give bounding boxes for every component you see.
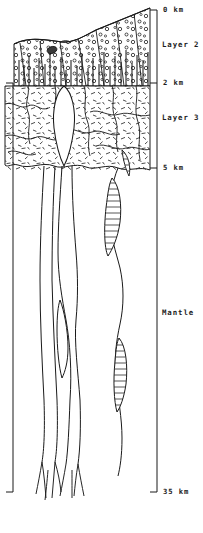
left-magma-conduit [40, 166, 44, 462]
layer-3-body [4, 86, 152, 172]
central-magma-conduit-edge [72, 166, 80, 464]
depth-axis-right [150, 10, 157, 492]
conduit-roots [36, 462, 84, 500]
right-conduit-melt-pocket-lower [108, 332, 136, 420]
geologic-cross-section-figure: 0 km 2 km 5 km 35 km Layer 2 Layer 3 Man… [0, 0, 203, 533]
central-conduit-swelling [57, 300, 68, 378]
depth-tick-label-0km: 0 km [163, 5, 184, 14]
mantle-label: Mantle [162, 308, 194, 317]
depth-tick-label-5km: 5 km [163, 163, 184, 172]
layer-3-label: Layer 3 [162, 113, 199, 122]
left-magma-conduit-edge [52, 166, 57, 462]
layer-2-label: Layer 2 [162, 40, 199, 49]
depth-tick-label-35km: 35 km [163, 487, 189, 496]
layer-2-body [10, 6, 155, 90]
depth-tick-label-2km: 2 km [163, 78, 184, 87]
